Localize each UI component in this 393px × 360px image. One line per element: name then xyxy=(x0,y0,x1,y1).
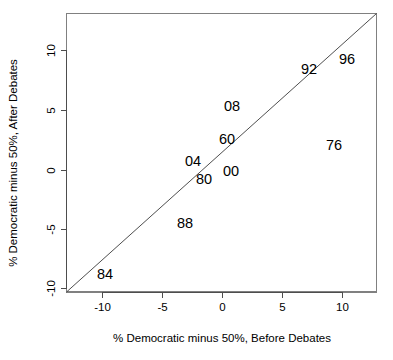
x-axis-title: % Democratic minus 50%, Before Debates xyxy=(113,332,331,344)
x-tick-label-0: 0 xyxy=(219,301,225,313)
y-tick-label-5: 5 xyxy=(45,107,57,113)
y-tick-label-minus10: -10 xyxy=(45,280,57,297)
y-tick-label-0: 0 xyxy=(45,167,57,173)
plot-canvas: 10 5 0 -5 -10 -10 -5 0 5 10 % Democratic… xyxy=(0,0,393,360)
data-label-04: 04 xyxy=(185,153,201,169)
y-axis-ticks xyxy=(61,51,67,289)
x-tick-label-10: 10 xyxy=(336,301,349,313)
x-tick-label-minus10: -10 xyxy=(94,301,111,313)
data-label-84: 84 xyxy=(97,266,113,282)
data-label-76: 76 xyxy=(326,137,342,153)
x-axis-ticks xyxy=(103,293,343,299)
y-tick-label-10: 10 xyxy=(45,44,57,57)
x-tick-label-5: 5 xyxy=(279,301,285,313)
data-label-96: 96 xyxy=(339,51,355,67)
x-tick-label-minus5: -5 xyxy=(157,301,167,313)
data-label-88: 88 xyxy=(177,215,193,231)
data-label-80: 80 xyxy=(196,171,212,187)
data-label-60: 60 xyxy=(219,131,235,147)
y-tick-label-minus5: -5 xyxy=(45,224,57,234)
scatter-plot-figure: 10 5 0 -5 -10 -10 -5 0 5 10 % Democratic… xyxy=(0,0,393,360)
data-label-92: 92 xyxy=(301,61,317,77)
data-label-00: 00 xyxy=(223,163,239,179)
data-point-labels: 96 92 08 76 60 04 00 80 88 84 xyxy=(97,51,355,282)
data-label-08: 08 xyxy=(224,98,240,114)
y-axis-title: % Democratic minus 50%, After Debates xyxy=(7,59,19,267)
x-axis-tick-labels: -10 -5 0 5 10 xyxy=(94,301,349,313)
y-axis-tick-labels: 10 5 0 -5 -10 xyxy=(45,44,57,297)
